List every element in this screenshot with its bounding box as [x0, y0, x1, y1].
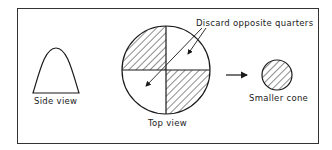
side-view-cone-shape: [33, 48, 79, 93]
hatched-quarter-bottom-right: [166, 70, 210, 114]
smaller-cone-group: Smaller cone: [249, 60, 308, 103]
arrow-to-top-right-quarter: [188, 28, 206, 54]
discard-label: Discard opposite quarters: [196, 18, 314, 28]
hatched-quarter-top-left: [122, 26, 166, 70]
side-view-group: Side view: [33, 48, 79, 106]
side-view-label: Side view: [34, 96, 77, 106]
smaller-cone-label: Smaller cone: [249, 93, 308, 103]
cone-quartering-diagram: Side view Top view Discard opposite quar…: [0, 0, 332, 150]
top-view-label: Top view: [147, 118, 187, 128]
